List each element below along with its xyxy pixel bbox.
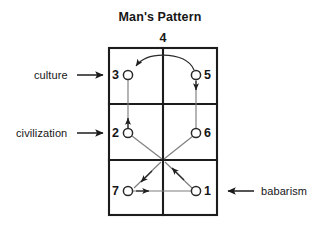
label-civilization: civilization — [16, 127, 103, 139]
flow-2-to-center — [132, 136, 162, 159]
flow-5-to-3-arc — [136, 55, 194, 70]
node-1-circle — [191, 186, 200, 195]
label-culture: culture — [34, 69, 103, 81]
mans-pattern-diagram: Man's Pattern 4 — [0, 0, 319, 232]
node-3-circle — [123, 70, 132, 79]
node-3-label: 3 — [112, 68, 119, 82]
node-7-label: 7 — [112, 184, 119, 198]
page-title: Man's Pattern — [119, 10, 202, 24]
node-7-circle — [123, 186, 132, 195]
flow-center-to-6 — [164, 136, 193, 159]
label-culture-text: culture — [34, 69, 68, 81]
label-civilization-text: civilization — [16, 127, 67, 139]
diagram-canvas: Man's Pattern 4 — [0, 0, 319, 232]
label-babarism: babarism — [228, 185, 307, 197]
node-2-label: 2 — [112, 126, 119, 140]
flow-center-to-7-arrowhead — [141, 171, 152, 182]
node-2-circle — [123, 128, 132, 137]
top-number-4: 4 — [160, 31, 167, 45]
label-babarism-text: babarism — [261, 185, 307, 197]
flow-1-to-center-arrowhead — [172, 168, 184, 180]
node-5-circle — [191, 70, 200, 79]
node-6-circle — [191, 128, 200, 137]
node-5-label: 5 — [204, 68, 211, 82]
node-6-label: 6 — [204, 126, 211, 140]
node-1-label: 1 — [204, 184, 211, 198]
